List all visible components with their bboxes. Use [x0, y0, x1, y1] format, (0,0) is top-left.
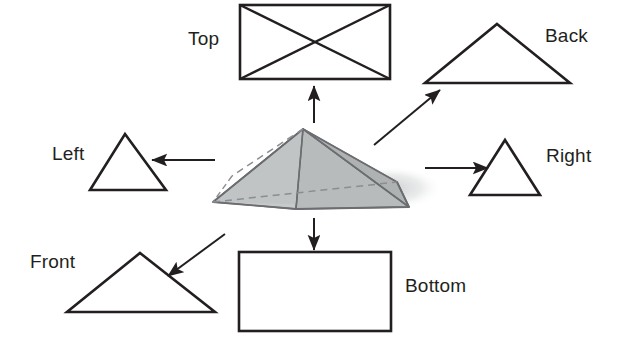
view-shape-top [240, 5, 390, 79]
view-shape-front [67, 253, 215, 312]
view-label-front: Front [30, 252, 75, 271]
view-label-back: Back [545, 26, 588, 45]
view-label-bottom: Bottom [405, 276, 466, 295]
front-triangle [67, 253, 215, 312]
view-label-top: Top [188, 29, 219, 48]
view-shape-left [90, 134, 166, 190]
arrow-to-back [374, 90, 440, 145]
view-shape-bottom [239, 252, 391, 331]
arrow-to-front [168, 234, 225, 276]
pyramid-3d [213, 129, 442, 210]
view-label-right: Right [546, 146, 591, 165]
diagram-canvas: Top Back Left Right Front Bottom [0, 0, 627, 342]
view-label-left: Left [52, 144, 85, 163]
bottom-rectangle [239, 252, 391, 331]
views-svg [0, 0, 627, 342]
left-triangle [90, 134, 166, 190]
